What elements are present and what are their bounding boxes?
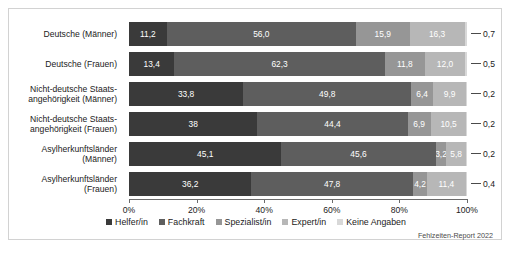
leader-line [471,63,481,64]
bar-segment: 11,4 [427,172,466,196]
category-label: Asylherkunftsländer(Männer) [9,141,121,167]
category-label-line: Nicht-deutsche Staats- [30,84,117,95]
legend-item: Keine Angaben [337,217,406,227]
stacked-bar: 13,462,311,812,0 [129,52,467,76]
axis-tick-label: 0% [123,205,135,215]
stacked-bar: 3844,46,910,5 [129,112,467,136]
chart-row: Deutsche (Frauen)13,462,311,812,00,5 [9,51,503,77]
bar-segment: 45,1 [129,142,281,166]
leader-line [471,183,481,184]
bar-segment [466,172,467,196]
bar-segment [466,82,467,106]
axis-tick-label: 40% [256,205,273,215]
figure-frame: Deutsche (Männer)11,256,015,916,30,7Deut… [8,8,502,240]
category-label-line: Asylherkunftsländer [42,174,117,185]
stacked-bar: 36,247,84,211,4 [129,172,467,196]
bar-segment: 56,0 [167,22,356,46]
stacked-bar: 33,849,86,49,9 [129,82,467,106]
legend-swatch-icon [159,219,165,225]
axis-tick [399,199,400,203]
legend-item: Spezialist/in [216,217,272,227]
stacked-bar: 11,256,015,916,3 [129,22,467,46]
legend-swatch-icon [337,219,343,225]
bar-segment: 6,4 [411,82,433,106]
legend-label: Helfer/in [115,217,148,227]
category-label: Deutsche (Männer) [9,21,121,47]
chart-row: Nicht-deutsche Staats-angehörigkeit (Fra… [9,111,503,137]
bar-segment: 4,2 [413,172,427,196]
bar-segment: 44,4 [257,112,407,136]
axis-tick-label: 60% [323,205,340,215]
axis-tick [197,199,198,203]
keine-angaben-value: 0,5 [483,51,495,77]
leader-line [471,93,481,94]
bar-segment: 16,3 [410,22,465,46]
bar-segment: 15,9 [356,22,410,46]
bar-segment: 33,8 [129,82,243,106]
bar-segment: 49,8 [243,82,411,106]
legend-label: Fachkraft [168,217,205,227]
axis-tick-label: 20% [188,205,205,215]
bar-segment [466,142,467,166]
category-label: Deutsche (Frauen) [9,51,121,77]
category-label: Asylherkunftsländer(Frauen) [9,171,121,197]
bar-segment: 45,6 [281,142,435,166]
keine-angaben-value: 0,4 [483,171,495,197]
leader-line [471,123,481,124]
bar-segment: 3,2 [436,142,447,166]
chart-legend: Helfer/inFachkraftSpezialist/inExpert/in… [9,217,503,227]
legend-item: Fachkraft [159,217,205,227]
legend-item: Helfer/in [106,217,148,227]
axis-tick [264,199,265,203]
axis-tick-label: 100% [456,205,478,215]
axis-tick [332,199,333,203]
stacked-bar-chart: Deutsche (Männer)11,256,015,916,30,7Deut… [9,9,503,241]
bar-segment: 38 [129,112,257,136]
bar-segment [466,112,467,136]
legend-label: Expert/in [291,217,326,227]
chart-rows: Deutsche (Männer)11,256,015,916,30,7Deut… [9,21,503,201]
bar-segment: 5,8 [446,142,466,166]
legend-label: Spezialist/in [225,217,272,227]
chart-row: Deutsche (Männer)11,256,015,916,30,7 [9,21,503,47]
axis-tick [467,199,468,203]
category-label-line: angehörigkeit (Männer) [28,94,117,105]
legend-swatch-icon [216,219,222,225]
category-label: Nicht-deutsche Staats-angehörigkeit (Fra… [9,111,121,137]
bar-segment: 13,4 [129,52,174,76]
axis-tick-label: 80% [391,205,408,215]
bar-segment: 62,3 [174,52,385,76]
source-note: Fehlzeiten-Report 2022 [418,231,493,240]
keine-angaben-value: 0,7 [483,21,495,47]
category-label-line: (Männer) [82,154,117,165]
x-axis: 0%20%40%60%80%100% [129,199,467,200]
chart-row: Asylherkunftsländer(Männer)45,145,63,25,… [9,141,503,167]
bar-segment: 11,2 [129,22,167,46]
category-label-line: Asylherkunftsländer [42,144,117,155]
chart-row: Asylherkunftsländer(Frauen)36,247,84,211… [9,171,503,197]
bar-segment [465,52,467,76]
category-label: Nicht-deutsche Staats-angehörigkeit (Män… [9,81,121,107]
bar-segment: 10,5 [431,112,466,136]
category-label-line: angehörigkeit (Frauen) [30,124,117,135]
category-label-line: Deutsche (Männer) [43,29,117,40]
chart-row: Nicht-deutsche Staats-angehörigkeit (Män… [9,81,503,107]
stacked-bar: 45,145,63,25,8 [129,142,467,166]
category-label-line: Nicht-deutsche Staats- [30,114,117,125]
keine-angaben-value: 0,2 [483,81,495,107]
bar-segment: 9,9 [433,82,466,106]
category-label-line: (Frauen) [84,184,117,195]
keine-angaben-value: 0,2 [483,111,495,137]
keine-angaben-value: 0,2 [483,141,495,167]
bar-segment [465,22,467,46]
bar-segment: 36,2 [129,172,251,196]
legend-item: Expert/in [282,217,326,227]
legend-swatch-icon [282,219,288,225]
category-label-line: Deutsche (Frauen) [45,59,117,70]
legend-label: Keine Angaben [346,217,406,227]
leader-line [471,153,481,154]
bar-segment: 6,9 [408,112,431,136]
bar-segment: 47,8 [251,172,413,196]
axis-tick [129,199,130,203]
legend-swatch-icon [106,219,112,225]
